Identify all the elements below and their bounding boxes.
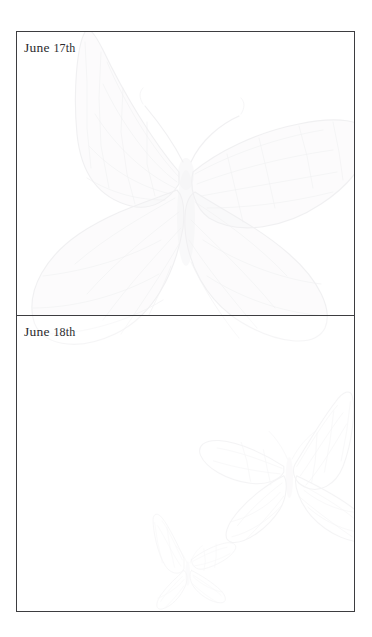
journal-frame: June 17th	[16, 31, 355, 612]
entry-panel-june-17[interactable]: June 17th	[17, 32, 354, 316]
entry-date-month-june-18: June	[24, 324, 50, 339]
page-canvas: June 17th	[0, 0, 372, 637]
entry-date-june-17: June 17th	[24, 39, 76, 57]
entry-body-june-18[interactable]	[17, 316, 354, 611]
entry-body-june-17[interactable]	[17, 32, 354, 315]
entry-panel-june-18[interactable]: June 18th	[17, 316, 354, 611]
entry-date-day-june-18: 18th	[53, 325, 75, 339]
entry-date-june-18: June 18th	[24, 323, 76, 341]
entry-date-day-june-17: 17th	[53, 41, 75, 55]
entry-date-month-june-17: June	[24, 40, 50, 55]
